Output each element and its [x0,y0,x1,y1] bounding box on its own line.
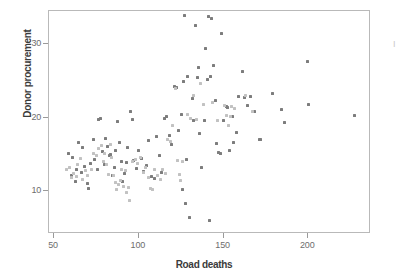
data-point [180,113,183,116]
data-point [74,180,77,183]
data-point [80,171,83,174]
data-point [117,183,120,186]
data-point [81,146,84,149]
data-point [192,94,195,97]
data-point [203,119,206,122]
data-point [226,106,229,109]
data-point [118,141,121,144]
y-axis-title: Donor procurement [22,0,33,149]
x-axis-tick-label: 200 [292,241,322,250]
data-point [186,75,189,78]
data-point [124,169,127,172]
data-point [211,101,214,104]
data-point [76,163,79,166]
data-point [183,14,186,17]
data-point [170,143,173,146]
data-point [129,110,132,113]
data-point [139,156,142,159]
data-point [185,158,188,161]
data-point [198,132,201,135]
data-point [199,82,202,85]
data-point [161,168,164,171]
data-point [177,129,180,132]
data-point [232,141,235,144]
data-point [142,171,145,174]
data-point [164,172,167,175]
data-points-layer [49,11,369,232]
y-axis-tick-label: 30 [31,39,41,48]
data-point [99,117,102,120]
data-point [75,175,78,178]
data-point [216,119,219,122]
x-axis-tick [307,233,308,238]
data-point [83,165,86,168]
data-point [206,78,209,81]
data-point [119,179,122,182]
data-point [228,149,231,152]
data-point [120,160,123,163]
data-point [123,172,126,175]
data-point [134,158,137,161]
plot-area [48,10,370,233]
data-point [280,108,283,111]
data-point [178,173,181,176]
data-point [158,154,161,157]
data-point [153,168,156,171]
data-point [84,169,87,172]
data-point [125,161,128,164]
data-point [87,187,90,190]
data-point [81,178,84,181]
data-point [105,163,108,166]
data-point [241,70,244,73]
data-point [100,144,103,147]
data-point [113,166,116,169]
data-point [147,176,150,179]
data-point [169,140,172,143]
data-point [122,185,125,188]
data-point [306,60,309,63]
x-axis-title: Road deaths [0,259,408,270]
data-point [135,167,138,170]
data-point [197,66,200,69]
data-point [109,143,112,146]
data-point [92,138,95,141]
data-point [114,149,117,152]
data-point [215,142,218,145]
data-point [259,138,262,141]
data-point [95,154,98,157]
data-point [86,174,89,177]
y-axis-tick-label: 20 [31,113,41,122]
data-point [168,134,171,137]
data-point [189,117,192,120]
data-point [204,47,207,50]
data-point [223,104,226,107]
data-point [251,110,254,113]
data-point [208,219,211,222]
data-point [181,188,184,191]
data-point [116,120,119,123]
x-axis-tick-label: 50 [38,241,68,250]
data-point [182,80,185,83]
data-point [115,188,118,191]
data-point [195,118,198,121]
data-point [136,162,139,165]
data-point [174,87,177,90]
data-point [70,176,73,179]
data-point [171,124,174,127]
y-axis-tick [43,43,48,44]
data-point [196,76,199,79]
data-point [233,107,236,110]
data-point [244,94,247,97]
data-point [188,216,191,219]
data-point [249,95,252,98]
data-point [184,202,187,205]
data-point [120,168,123,171]
data-point [144,166,147,169]
data-point [89,162,92,165]
data-point [110,156,113,159]
data-point [160,171,163,174]
data-point [212,64,215,67]
data-point [353,114,356,117]
data-point [75,168,78,171]
data-point [90,168,93,171]
